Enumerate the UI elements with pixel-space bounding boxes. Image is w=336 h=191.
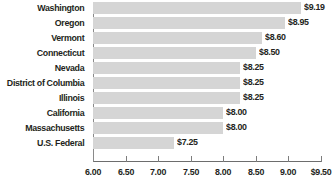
category-label: Oregon	[6, 17, 88, 32]
bar	[93, 122, 223, 134]
x-axis-tick-label: 8.50	[248, 166, 264, 177]
bar-row: $8.60	[93, 32, 321, 47]
bar-value-label: $7.25	[177, 136, 198, 147]
bar-chart: WashingtonOregonVermontConnecticutNevada…	[0, 0, 336, 191]
bar-value-label: $8.25	[243, 61, 264, 72]
x-axis-tick-labels: 6.006.507.007.508.008.509.00$9.50	[93, 166, 321, 182]
bar-value-label: $8.95	[288, 16, 309, 27]
category-label: California	[6, 107, 88, 122]
bar	[93, 77, 240, 89]
category-label: Connecticut	[6, 47, 88, 62]
category-label: Vermont	[6, 32, 88, 47]
bar	[93, 107, 223, 119]
bar-row: $8.25	[93, 62, 321, 77]
bar	[93, 137, 174, 149]
bars-container: $9.19$8.95$8.60$8.50$8.25$8.25$8.25$8.00…	[93, 2, 321, 152]
bar-row: $8.00	[93, 122, 321, 137]
category-label: Massachusetts	[6, 122, 88, 137]
plot-area: $9.19$8.95$8.60$8.50$8.25$8.25$8.25$8.00…	[93, 2, 321, 162]
bar-value-label: $8.50	[259, 46, 280, 57]
x-axis-tick-label: 7.00	[150, 166, 166, 177]
bar-value-label: $8.60	[265, 31, 286, 42]
x-axis-tick-label: 7.50	[183, 166, 199, 177]
bar-row: $8.25	[93, 92, 321, 107]
bar-row: $9.19	[93, 2, 321, 17]
x-axis-tick	[321, 156, 322, 162]
x-axis-tick-label: 6.50	[118, 166, 134, 177]
bar-row: $8.95	[93, 17, 321, 32]
bar	[93, 62, 240, 74]
category-label: Washington	[6, 2, 88, 17]
bar	[93, 47, 256, 59]
bar-value-label: $8.00	[226, 121, 247, 132]
bar	[93, 17, 285, 29]
x-axis-tick-label: 9.00	[280, 166, 296, 177]
category-label: U.S. Federal	[6, 137, 88, 152]
bar	[93, 2, 301, 14]
category-label: Nevada	[6, 62, 88, 77]
bar-value-label: $8.25	[243, 91, 264, 102]
bar-row: $8.25	[93, 77, 321, 92]
x-axis-tick-label: $9.50	[311, 166, 332, 177]
bar-row: $8.50	[93, 47, 321, 62]
bar-row: $7.25	[93, 137, 321, 152]
category-label: Illinois	[6, 92, 88, 107]
category-axis-labels: WashingtonOregonVermontConnecticutNevada…	[0, 2, 88, 152]
bar	[93, 92, 240, 104]
bar-value-label: $9.19	[304, 1, 325, 12]
bar-row: $8.00	[93, 107, 321, 122]
bar-value-label: $8.00	[226, 106, 247, 117]
category-label: District of Columbia	[6, 77, 88, 92]
bar-value-label: $8.25	[243, 76, 264, 87]
x-axis-tick-label: 6.00	[85, 166, 101, 177]
bar	[93, 32, 262, 44]
x-axis-tick-label: 8.00	[215, 166, 231, 177]
